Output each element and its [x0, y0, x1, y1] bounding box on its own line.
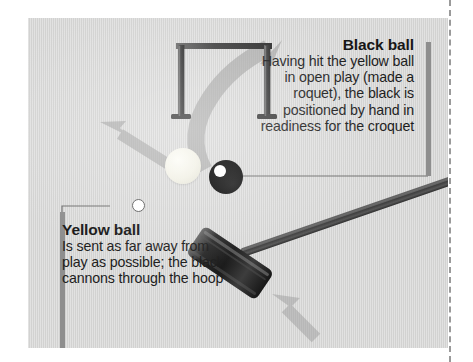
yellow-ball-path-arrow: [100, 121, 168, 164]
page-tear-dashed-line: [449, 0, 451, 362]
illustration-panel: Black ball Having hit the yellow ball in…: [28, 18, 448, 348]
croquet-diagram-figure: Black ball Having hit the yellow ball in…: [0, 0, 473, 362]
callout-black-ball-body: Having hit the yellow ball in open play …: [254, 53, 414, 134]
callout-yellow-ball-body: Is sent as far away from play as possibl…: [62, 238, 230, 287]
callout-yellow-ball-heading: Yellow ball: [62, 221, 230, 238]
black-ball: [209, 160, 243, 194]
callout-yellow-ball: Yellow ball Is sent as far away from pla…: [62, 221, 230, 287]
callout-black-ball: Black ball Having hit the yellow ball in…: [254, 36, 414, 134]
yellow-ball: [165, 148, 201, 184]
yellow-ball-leader-line: [62, 206, 110, 214]
black-ball-highlight: [214, 165, 226, 177]
mallet-swing-arrow: [272, 294, 316, 338]
yellow-ball-leader-dot: [132, 199, 145, 212]
black-ball-callout-bar: [426, 42, 431, 176]
callout-black-ball-heading: Black ball: [254, 36, 414, 53]
